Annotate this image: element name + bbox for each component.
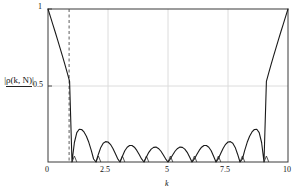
plot-canvas: [0, 0, 299, 191]
xtick-label-7-5: 7.5: [220, 165, 230, 174]
x-axis-title: k: [165, 179, 169, 188]
xtick-label-2-5: 2.5: [100, 165, 110, 174]
y-axis-label-underline: [6, 86, 32, 87]
y-axis-label: |ρ(k, N)|: [2, 76, 36, 87]
figure-container: |ρ(k, N)| 1 0.5 0 2.5 5 7.5 10 k: [0, 0, 299, 191]
xtick-9: [264, 156, 269, 162]
gridlines: [48, 9, 288, 162]
xtick-label-5: 5: [165, 165, 169, 174]
y-axis-label-text: |ρ(k, N)|: [2, 76, 36, 85]
ytick-label-1: 1: [38, 2, 42, 11]
xtick-label-10: 10: [283, 165, 291, 174]
xtick-label-0: 0: [45, 165, 49, 174]
ytick-label-0-5: 0.5: [33, 80, 43, 89]
